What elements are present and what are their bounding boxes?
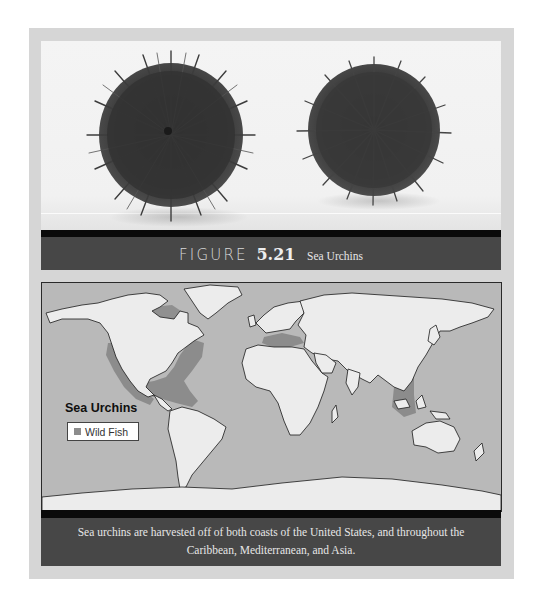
urchin-right — [297, 57, 451, 205]
urchin-left-image — [41, 41, 501, 230]
caption-band-stripe — [41, 510, 501, 518]
world-map: Sea Urchins Wild Fish — [41, 282, 502, 512]
legend-label-wild-fish: Wild Fish — [85, 426, 128, 438]
figure-caption: Sea urchins are harvested off of both co… — [41, 518, 501, 559]
figure-title: FIGURE 5.21 Sea Urchins — [41, 237, 501, 264]
landmasses — [42, 285, 501, 511]
figure-label: FIGURE — [179, 246, 248, 264]
figure-number: 5.21 — [256, 245, 295, 264]
figure-caption-band: Sea urchins are harvested off of both co… — [41, 510, 501, 566]
sea-urchin-photo — [41, 41, 501, 230]
legend-title: Sea Urchins — [65, 401, 137, 415]
world-map-graphic — [42, 283, 501, 511]
title-band-stripe — [41, 230, 501, 237]
urchin-left — [87, 51, 255, 221]
figure-frame: FIGURE 5.21 Sea Urchins — [29, 28, 514, 579]
legend: Wild Fish — [67, 422, 139, 441]
figure-name: Sea Urchins — [307, 250, 363, 262]
legend-swatch-wild-fish — [74, 428, 81, 435]
figure-title-band: FIGURE 5.21 Sea Urchins — [41, 230, 501, 270]
